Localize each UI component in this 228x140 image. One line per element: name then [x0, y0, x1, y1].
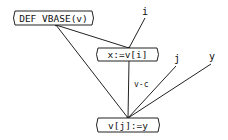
node-x-assign-label: x:=v[i]	[107, 49, 147, 60]
input-label-y: y	[209, 51, 215, 62]
edge-xassign-to-vassign	[128, 61, 129, 118]
input-label-i: i	[142, 6, 148, 17]
edge-i-to-xassign	[129, 18, 145, 48]
dependency-diagram: DEF VBASE(v) x:=v[i] v[j]:=y i j y v-c	[0, 0, 228, 140]
input-label-j: j	[174, 53, 180, 64]
edge-y-to-vassign	[128, 64, 211, 118]
edge-def-to-vassign	[56, 25, 128, 118]
node-x-assign[interactable]: x:=v[i]	[97, 48, 159, 61]
edge-def-to-xassign	[56, 25, 129, 48]
node-v-assign[interactable]: v[j]:=y	[97, 118, 160, 132]
edge-label-v-c: v-c	[134, 80, 149, 89]
node-def-vbase[interactable]: DEF VBASE(v)	[14, 11, 94, 25]
node-v-assign-label: v[j]:=y	[108, 120, 148, 131]
node-def-vbase-label: DEF VBASE(v)	[19, 13, 88, 24]
